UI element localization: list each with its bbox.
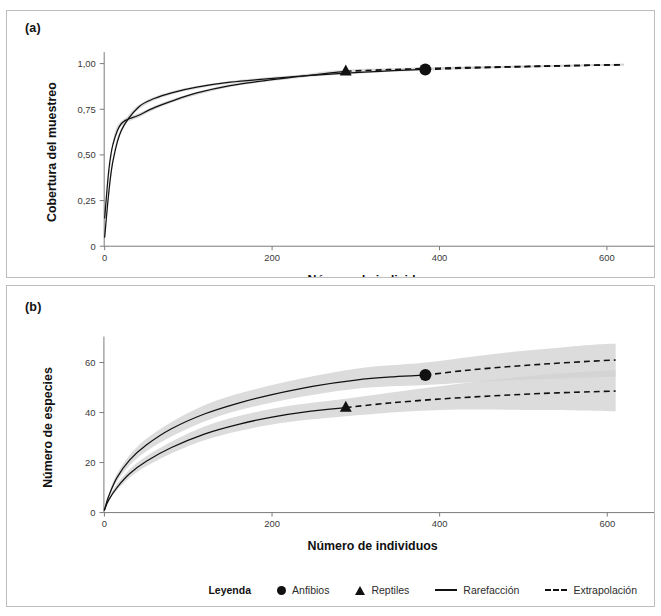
rarefaction-curve-reptiles bbox=[105, 71, 346, 218]
x-tick-label: 600 bbox=[599, 518, 615, 529]
y-tick-label: 0 bbox=[91, 241, 96, 252]
y-tick-label: 0,75 bbox=[77, 104, 95, 115]
dashed-line-icon bbox=[545, 589, 567, 591]
x-tick-label: 400 bbox=[432, 518, 448, 529]
x-axis-label: Número de individuos bbox=[307, 539, 437, 553]
rarefaction-curve-anfibios bbox=[105, 69, 426, 237]
legend-label-reptiles: Reptiles bbox=[371, 584, 409, 596]
panel-b: (b) 02004006000204060Número de individuo… bbox=[6, 285, 655, 607]
legend-label-extrapolacion: Extrapolación bbox=[573, 584, 637, 596]
y-tick-label: 60 bbox=[85, 357, 96, 368]
y-axis-label: Cobertura del muestreo bbox=[45, 82, 59, 222]
legend-label-anfibios: Anfibios bbox=[292, 584, 329, 596]
y-tick-label: 0,25 bbox=[77, 195, 95, 206]
legend-label-rarefaccion: Rarefacción bbox=[463, 584, 519, 596]
circle-marker-icon bbox=[277, 586, 286, 595]
band-anfibios bbox=[104, 344, 615, 510]
legend-item-anfibios: Anfibios bbox=[277, 584, 329, 596]
x-tick-label: 0 bbox=[102, 518, 107, 529]
x-tick-label: 600 bbox=[599, 252, 615, 263]
axes: 020040060000,250,500,751,00 bbox=[77, 52, 654, 263]
figure-root: (a) 020040060000,250,500,751,00Número de… bbox=[0, 0, 661, 616]
y-tick-label: 20 bbox=[85, 457, 96, 468]
curves bbox=[105, 65, 624, 237]
y-tick-label: 0 bbox=[90, 507, 95, 518]
x-axis-label: Número de individuos bbox=[307, 273, 437, 277]
band-reptiles bbox=[105, 64, 624, 220]
legend-item-extrapolacion: Extrapolación bbox=[545, 584, 637, 596]
x-tick-label: 0 bbox=[102, 252, 107, 263]
x-tick-label: 400 bbox=[432, 252, 448, 263]
y-tick-label: 40 bbox=[85, 407, 96, 418]
circle-marker-icon bbox=[419, 369, 431, 381]
y-tick-label: 0,50 bbox=[77, 149, 95, 160]
circle-marker-icon bbox=[419, 63, 431, 75]
panel-a: (a) 020040060000,250,500,751,00Número de… bbox=[6, 10, 655, 278]
confidence-bands bbox=[104, 344, 615, 510]
legend-title: Leyenda bbox=[208, 584, 251, 596]
solid-line-icon bbox=[435, 589, 457, 591]
x-tick-label: 200 bbox=[264, 252, 280, 263]
panel-b-plot: 02004006000204060Número de individuosNúm… bbox=[7, 286, 654, 606]
panel-a-plot: 020040060000,250,500,751,00Número de ind… bbox=[7, 11, 654, 277]
legend-item-reptiles: Reptiles bbox=[355, 584, 409, 596]
band-reptiles bbox=[104, 370, 615, 510]
legend: Leyenda Anfibios Reptiles Rarefacción Ex… bbox=[6, 578, 655, 602]
triangle-marker-icon bbox=[355, 586, 365, 595]
y-axis-label: Número de especies bbox=[41, 367, 55, 488]
y-tick-label: 1,00 bbox=[77, 58, 95, 69]
legend-item-rarefaccion: Rarefacción bbox=[435, 584, 519, 596]
x-tick-label: 200 bbox=[264, 518, 280, 529]
